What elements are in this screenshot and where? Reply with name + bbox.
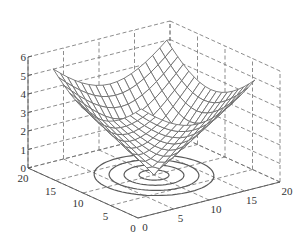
y-tick-label: 5 <box>103 210 109 222</box>
z-tick-label: 2 <box>21 125 27 137</box>
z-tick-label: 1 <box>21 144 27 156</box>
z-tick-label: 6 <box>21 51 27 63</box>
x-tick-label: 10 <box>211 203 223 215</box>
z-tick-label: 4 <box>21 88 27 100</box>
x-tick-label: 15 <box>246 194 258 206</box>
y-tick-label: 15 <box>45 185 57 197</box>
z-tick-label: 5 <box>21 70 27 82</box>
z-tick <box>28 130 32 131</box>
x-tick-label: 20 <box>282 185 294 197</box>
z-tick <box>28 167 32 168</box>
x-axis-line <box>138 182 280 218</box>
z-tick-label: 3 <box>21 107 27 119</box>
x-tick-label: 5 <box>178 212 184 224</box>
y-tick-label: 20 <box>18 172 30 184</box>
z-tick <box>28 112 32 113</box>
surface-plot: 01234560510152005101520 <box>0 0 304 243</box>
y-tick-label: 0 <box>130 222 136 234</box>
z-tick <box>28 75 32 76</box>
y-tick-label: 10 <box>73 197 85 209</box>
z-tick <box>28 56 32 57</box>
z-tick <box>28 93 32 94</box>
z-tick <box>28 149 32 150</box>
surface-mesh <box>53 40 255 175</box>
x-tick-label: 0 <box>142 221 148 233</box>
